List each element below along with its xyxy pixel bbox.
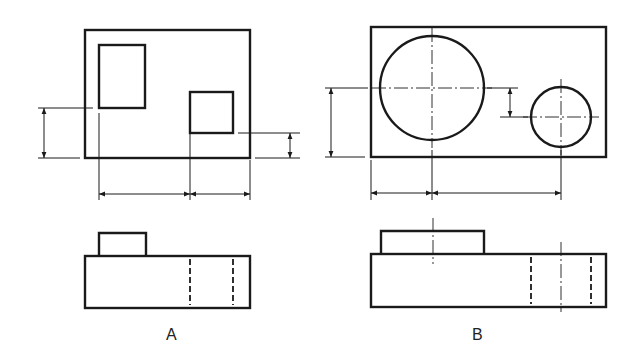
view-label-b: B [472,326,483,344]
top-view-outline [371,27,606,157]
view-b [325,27,606,312]
rectangular-cutout [190,92,233,133]
view-a [38,30,300,308]
front-view-boss [99,233,146,256]
front-view-boss [381,231,484,254]
top-view-outline [85,30,250,158]
front-view-body [371,254,606,307]
engineering-drawing: A B [0,0,635,359]
drawing-canvas [0,0,635,359]
view-label-a: A [166,326,177,344]
front-view-body [85,256,250,308]
rectangular-cutout [99,45,145,108]
